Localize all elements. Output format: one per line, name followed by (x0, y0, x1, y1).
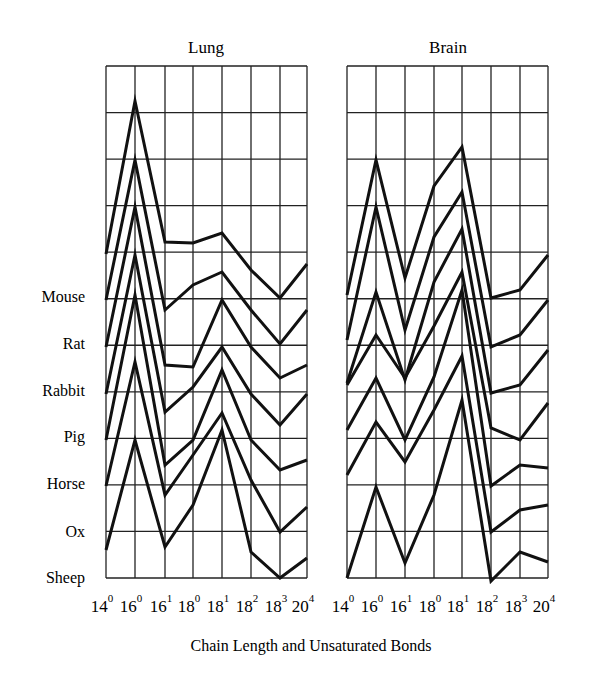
series-line-rabbit (106, 207, 307, 378)
species-labels: Mouse Rat Rabbit Pig Horse Ox Sheep (41, 288, 85, 587)
x-tick-labels-lung: 140160161180181182183204 (91, 592, 315, 616)
x-tick-label: 161 (390, 592, 413, 616)
species-label-rat: Rat (63, 335, 86, 352)
species-label-ox: Ox (65, 523, 85, 540)
species-label-pig: Pig (64, 428, 85, 446)
panel-title-lung: Lung (188, 38, 224, 57)
species-label-mouse: Mouse (41, 288, 85, 305)
series-line-mouse (347, 147, 548, 298)
grid-lung (106, 66, 307, 578)
x-tick-label: 160 (120, 592, 143, 616)
x-tick-label: 180 (178, 592, 201, 616)
x-tick-label: 182 (476, 592, 499, 616)
species-label-sheep: Sheep (46, 569, 85, 587)
series-line-rat (347, 192, 548, 347)
series-line-rabbit (347, 229, 548, 393)
series-line-horse (347, 290, 548, 486)
species-label-rabbit: Rabbit (42, 382, 85, 399)
series-line-sheep (106, 430, 307, 578)
x-tick-label: 183 (505, 592, 528, 616)
x-tick-label: 182 (236, 592, 259, 616)
x-tick-label: 181 (207, 592, 230, 616)
panel-title-brain: Brain (429, 38, 467, 57)
x-tick-label: 140 (332, 592, 355, 616)
series-line-sheep (347, 400, 548, 581)
x-tick-label: 204 (533, 592, 556, 616)
x-tick-label: 160 (361, 592, 384, 616)
x-tick-label: 180 (419, 592, 442, 616)
species-label-horse: Horse (47, 475, 85, 492)
x-tick-label: 183 (265, 592, 288, 616)
x-tick-label: 161 (150, 592, 173, 616)
chart-canvas: Lung Brain Mouse Rat Rabbit Pig Horse Ox… (0, 0, 594, 692)
series-lines-lung (106, 101, 307, 578)
grid-brain (347, 66, 548, 578)
x-tick-labels-brain: 140160161180181182183204 (332, 592, 556, 616)
series-lines-brain (347, 147, 548, 581)
x-axis-title: Chain Length and Unsaturated Bonds (191, 637, 432, 655)
x-tick-label: 181 (447, 592, 470, 616)
x-tick-label: 204 (292, 592, 315, 616)
x-tick-label: 140 (91, 592, 114, 616)
